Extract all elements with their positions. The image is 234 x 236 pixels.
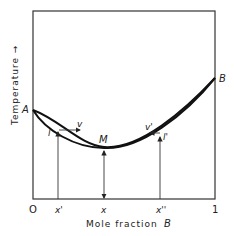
vapor-curve [33,78,215,147]
label-B: B [219,73,226,84]
x-axis-label: Mole fraction [86,219,158,229]
tick-1: 1 [212,204,218,215]
tick-x-prime: x' [54,205,63,215]
tick-x-double-prime: x'' [155,205,166,215]
phase-diagram: A B M v l v' l' O x' x x'' 1 Mole fracti… [0,0,234,236]
label-M: M [99,134,108,145]
y-axis-label: Temperature → [10,45,20,126]
label-l-prime: l' [163,132,168,142]
label-v-prime: v' [145,122,153,132]
x-axis-symbol: B [164,218,171,229]
label-v: v [77,119,83,129]
liquid-curve [33,78,215,148]
label-A: A [21,104,29,115]
tick-0: O [29,204,37,215]
tick-x: x [100,205,107,215]
